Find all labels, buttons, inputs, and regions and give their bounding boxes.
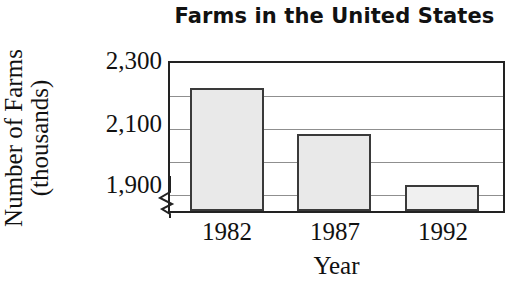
bar-chart-figure: Farms in the United States Number of Far…: [0, 0, 519, 294]
y-tick-label-2300: 2,300: [62, 47, 162, 75]
bar-1992: [405, 185, 479, 211]
y-axis-title-line2: (thousands): [27, 13, 53, 263]
x-tick-label-1982: 1982: [170, 218, 284, 246]
x-axis-title: Year: [168, 252, 505, 280]
chart-title: Farms in the United States: [150, 4, 519, 28]
x-tick-label-1992: 1992: [387, 218, 499, 246]
y-tick-label-1900: 1,900: [62, 171, 162, 199]
y-axis-title-line1: Number of Farms: [1, 13, 27, 263]
y-axis-title: Number of Farms (thousands): [1, 13, 63, 263]
x-tick-label-1987: 1987: [279, 218, 391, 246]
y-axis-break-icon: [156, 176, 178, 218]
bar-1987: [297, 134, 371, 211]
y-tick-label-2100: 2,100: [62, 110, 162, 138]
plot-area: [168, 61, 505, 213]
bar-1982: [190, 88, 264, 211]
y-axis-tick-labels: 2,300 2,100 1,900: [62, 0, 162, 294]
